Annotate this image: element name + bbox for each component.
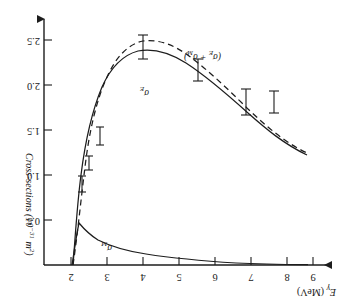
y-axis-title-unit: m [24, 239, 35, 249]
y-axis-title-text: Cross-sections (10 [24, 153, 35, 227]
curve-sigma-sum [73, 41, 307, 265]
sum-open-paren: ( [218, 52, 221, 62]
curve-label-sigma-e: σE [140, 85, 149, 98]
x-tick-label-7: 7 [242, 272, 260, 283]
x-axis-title-unit: (MeV) [297, 287, 324, 298]
y-tick-label-20: 2.0 [27, 81, 40, 92]
x-tick-label-5: 5 [170, 272, 188, 283]
y-axis-title: Cross-sections (10−31 m2) [24, 153, 36, 256]
sum-close-paren: ) [184, 52, 187, 62]
x-tick-label-2: 2 [62, 272, 80, 283]
sigma-e-symbol: σ [144, 88, 149, 98]
y-axis-title-close: ) [24, 252, 35, 255]
curve-sigma-e [73, 50, 307, 265]
sigma-e-subscript: E [140, 85, 144, 93]
x-tick-label-6: 6 [206, 272, 224, 283]
sum-sigma-m-symbol: σ [193, 52, 198, 62]
x-axis-title: Eγ (MeV) [297, 284, 336, 298]
error-bar [138, 35, 148, 59]
error-bar [96, 127, 104, 145]
y-tick-label-25: 2.5 [27, 36, 40, 47]
sum-sigma-e-subscript: E [209, 49, 213, 57]
curve-label-sigma-sum: (σE + σM) [184, 49, 221, 62]
x-tick-label-9: 9 [304, 272, 322, 283]
y-axis-ticks [44, 40, 52, 220]
y-tick-label-15: 1.5 [27, 126, 40, 137]
sum-sigma-m-subscript: M [187, 49, 193, 57]
sum-sigma-e-symbol: σ [213, 52, 218, 62]
x-axis-title-subscript: γ [327, 284, 330, 293]
error-bar [269, 91, 279, 113]
plot-frame: Eγ (MeV) 2 3 4 5 6 7 8 9 0.5 1.0 1.5 2.0… [0, 0, 354, 303]
sigma-m-symbol: σ [107, 243, 112, 253]
chart-canvas [0, 0, 354, 303]
y-axis [44, 19, 52, 265]
y-axis-title-exponent: −31 [28, 227, 36, 239]
x-axis-title-symbol: E [330, 287, 336, 298]
sum-plus-sign: + [198, 52, 209, 62]
x-tick-label-3: 3 [98, 272, 116, 283]
sigma-m-subscript: M [101, 240, 107, 248]
x-axis [44, 257, 332, 265]
error-bar [193, 59, 203, 81]
error-bar [85, 156, 93, 170]
x-tick-label-4: 4 [134, 272, 152, 283]
rotated-figure-container: Eγ (MeV) 2 3 4 5 6 7 8 9 0.5 1.0 1.5 2.0… [0, 0, 354, 303]
x-tick-label-8: 8 [278, 272, 296, 283]
curve-label-sigma-m: σM [101, 240, 112, 253]
